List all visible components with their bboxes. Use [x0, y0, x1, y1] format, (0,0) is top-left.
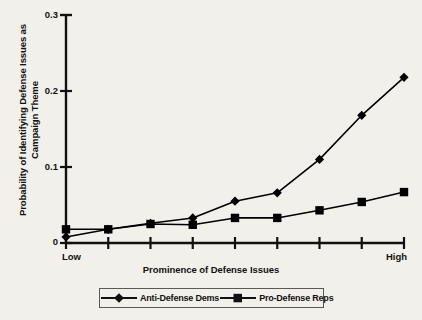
data-point-square [189, 221, 197, 229]
series-lines [66, 77, 404, 237]
data-point-square [104, 225, 112, 233]
chart-figure: Probability of Identifying Defense Issue… [0, 0, 422, 320]
legend-label-pro-defense-reps: Pro-Defense Reps [259, 293, 333, 303]
diamond-marker-icon [100, 292, 138, 304]
legend-entry-anti-defense-dems: Anti-Defense Dems [100, 292, 219, 304]
data-point-square [400, 188, 408, 196]
data-point-square [146, 220, 154, 228]
data-point-square [358, 198, 366, 206]
data-point-square [231, 214, 239, 222]
legend-entry-pro-defense-reps: Pro-Defense Reps [219, 292, 333, 304]
data-point-square [315, 206, 323, 214]
series-markers [61, 73, 408, 242]
data-point-diamond [230, 197, 239, 206]
data-point-square [273, 214, 281, 222]
legend: Anti-Defense Dems Pro-Defense Reps [99, 288, 324, 308]
data-point-square [62, 225, 70, 233]
axis-lines [66, 15, 404, 243]
square-marker-icon [219, 292, 257, 304]
plot-area [0, 0, 422, 320]
data-point-diamond [61, 232, 70, 241]
series-line-0 [66, 77, 404, 237]
legend-label-anti-defense-dems: Anti-Defense Dems [140, 293, 219, 303]
